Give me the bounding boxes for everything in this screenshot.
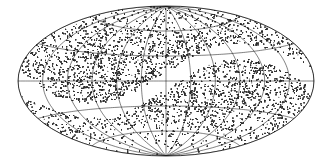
- sky-map-figure: [0, 0, 332, 168]
- aitoff-projection-plot: [0, 0, 332, 168]
